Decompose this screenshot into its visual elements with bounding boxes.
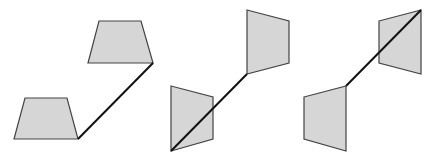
quadrilateral-2	[379, 10, 421, 74]
quadrilateral-2	[88, 21, 153, 63]
panel-3-quads	[304, 10, 421, 151]
diagram-canvas	[0, 0, 436, 157]
panel-1-trapezoids	[14, 21, 153, 139]
connector-line	[78, 63, 153, 139]
quadrilateral-1	[304, 86, 346, 151]
quadrilateral-2	[247, 10, 289, 74]
panel-2-quads	[171, 10, 289, 151]
quadrilateral-1	[14, 98, 78, 139]
quadrilateral-1	[171, 86, 213, 151]
